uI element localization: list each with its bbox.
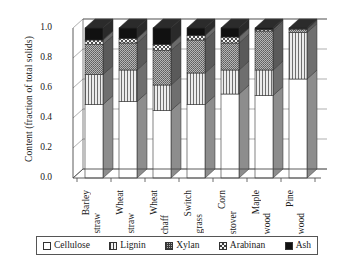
- y-tick-1.0: 1.0: [40, 23, 52, 33]
- x-tick-line: wood: [296, 213, 307, 234]
- legend-label: Arabinan: [230, 241, 265, 251]
- legend-swatch-arabinan-icon: [219, 242, 227, 250]
- x-tick-labels: BarleystrawWheatstrawWheatchaffSwitchgra…: [55, 190, 335, 236]
- legend-item-arabinan[interactable]: Arabinan: [219, 241, 265, 251]
- plot-svg: [55, 18, 327, 186]
- x-tick-line: grass: [194, 214, 205, 234]
- bars-group: [85, 19, 317, 178]
- x-tick-line: Wheat: [149, 190, 160, 215]
- legend-item-lignin[interactable]: Lignin: [109, 241, 145, 251]
- bar-wheat-straw: [119, 19, 147, 178]
- x-tick-line: Corn: [217, 190, 228, 209]
- legend-label: Xylan: [176, 241, 199, 251]
- x-tick-line: straw: [126, 213, 137, 234]
- x-tick-line: wood: [262, 213, 273, 234]
- bar-switch-grass: [187, 19, 215, 178]
- bar-maple-wood: [255, 19, 283, 178]
- x-tick-line: Switch: [183, 190, 194, 216]
- legend-item-ash[interactable]: Ash: [285, 241, 311, 251]
- y-tick-0.0: 0.0: [40, 173, 52, 183]
- bar-wheat-chaff: [153, 19, 181, 178]
- legend-label: Ash: [296, 241, 311, 251]
- chart-figure: Content (fraction of total solids): [0, 0, 343, 265]
- legend-item-xylan[interactable]: Xylan: [165, 241, 199, 251]
- x-tick-pine-wood: Pinewood: [285, 190, 331, 234]
- plot-area: 0.00.20.40.60.81.0: [55, 18, 327, 186]
- x-tick-line: straw: [92, 213, 103, 234]
- y-tick-0.4: 0.4: [40, 113, 52, 123]
- legend-item-cellulose[interactable]: Cellulose: [43, 241, 90, 251]
- legend-label: Lignin: [120, 241, 145, 251]
- y-tick-0.8: 0.8: [40, 53, 52, 63]
- legend-swatch-cellulose-icon: [43, 242, 51, 250]
- legend-swatch-xylan-icon: [165, 242, 173, 250]
- x-tick-line: chaff: [160, 215, 171, 234]
- x-tick-line: Maple: [251, 190, 262, 214]
- x-tick-line: Barley: [81, 190, 92, 215]
- legend-label: Cellulose: [54, 241, 90, 251]
- x-tick-line: stover: [228, 211, 239, 234]
- bar-pine-wood: [289, 19, 317, 178]
- legend-swatch-ash-icon: [285, 242, 293, 250]
- legend-swatch-lignin-icon: [109, 242, 117, 250]
- y-tick-0.6: 0.6: [40, 83, 52, 93]
- x-tick-line: Wheat: [115, 190, 126, 215]
- y-tick-0.2: 0.2: [40, 143, 52, 153]
- x-tick-line: Pine: [285, 190, 296, 207]
- chart-legend: CelluloseLigninXylanArabinanAsh: [36, 236, 318, 255]
- y-axis-title: Content (fraction of total solids): [24, 12, 34, 187]
- bar-barley-straw: [85, 19, 113, 178]
- bar-corn-stover: [221, 19, 249, 178]
